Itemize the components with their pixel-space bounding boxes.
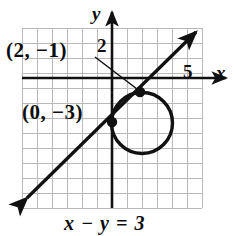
x-tick-label-5: 5 [183,62,193,81]
point-marker-b [107,117,117,127]
y-axis-label: y [92,4,100,23]
graph-figure: (2, −1) (0, −3) 2 5 y x x − y = 3 [0,0,234,236]
equation-caption: x − y = 3 [64,213,145,233]
x-axis-label: x [216,63,226,82]
y-tick-label-2: 2 [97,36,107,55]
annotation-point-b: (0, −3) [22,102,83,123]
annotation-point-a: (2, −1) [6,40,67,61]
